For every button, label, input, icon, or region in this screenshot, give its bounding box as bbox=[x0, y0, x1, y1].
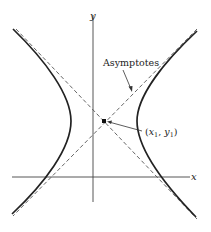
hyperbola-diagram: y x Asymptotes (x1, y1) bbox=[0, 0, 211, 232]
center-point bbox=[102, 119, 106, 123]
asymptotes-label: Asymptotes bbox=[102, 57, 159, 68]
center-point-label: (x1, y1) bbox=[145, 126, 178, 139]
asymptote-arrowhead-icon bbox=[129, 86, 133, 92]
y-axis-label: y bbox=[89, 10, 96, 21]
center-arrowhead-icon bbox=[107, 121, 112, 125]
hyperbola-left-branch bbox=[12, 29, 71, 214]
label-close-paren: ) bbox=[174, 126, 178, 137]
x-axis-label: x bbox=[191, 171, 197, 182]
asymptote-pointer-line bbox=[123, 70, 131, 89]
